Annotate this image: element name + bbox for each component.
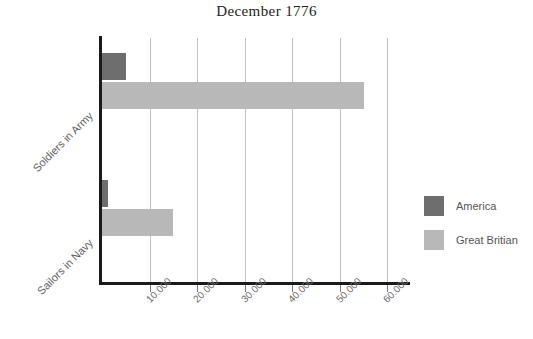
gridline	[197, 38, 198, 283]
legend-item-great-britian: Great Britian	[424, 230, 518, 250]
bar-chart: December 1776 10.00020.00030.00040.00050…	[0, 0, 533, 339]
bar-great-britian	[102, 82, 364, 109]
gridline	[387, 38, 388, 283]
gridline	[340, 38, 341, 283]
legend-swatch-america	[424, 196, 444, 216]
chart-title: December 1776	[0, 3, 533, 20]
bar-america	[102, 180, 108, 207]
legend-label-great-britian: Great Britian	[456, 234, 518, 246]
category-label: Sailors in Navy	[19, 237, 95, 313]
bar-great-britian	[102, 209, 173, 236]
gridline	[245, 38, 246, 283]
bar-america	[102, 53, 126, 80]
gridline	[150, 38, 151, 283]
plot-area	[102, 38, 397, 283]
y-axis-line	[99, 36, 102, 284]
gridline	[292, 38, 293, 283]
category-label: Soldiers in Army	[19, 110, 95, 186]
legend-swatch-great-britian	[424, 230, 444, 250]
legend-item-america: America	[424, 196, 496, 216]
legend-label-america: America	[456, 200, 496, 212]
